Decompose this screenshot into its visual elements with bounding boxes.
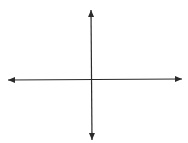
arrow-up-icon xyxy=(88,10,94,17)
axes-graphic xyxy=(0,0,188,143)
arrow-right-icon xyxy=(175,76,182,82)
arrow-down-icon xyxy=(89,133,95,140)
arrow-left-icon xyxy=(8,77,15,83)
coordinate-axes-diagram xyxy=(0,0,188,143)
x-axis xyxy=(8,79,182,80)
y-axis xyxy=(91,10,92,140)
